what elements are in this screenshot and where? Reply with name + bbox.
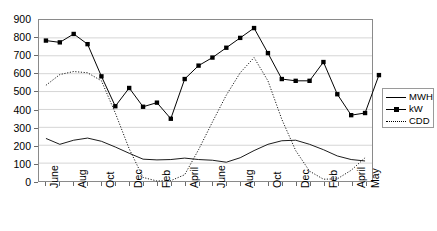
legend-swatch-icon bbox=[385, 104, 407, 115]
x-axis: JuneAugOctDecFebAprilJuneAugOctDecFebApr… bbox=[38, 182, 373, 231]
x-tick-mark bbox=[282, 182, 283, 186]
x-tick-mark bbox=[185, 182, 186, 186]
data-point-marker bbox=[238, 36, 242, 40]
y-tick-label: 800 bbox=[13, 32, 31, 42]
x-tick-mark bbox=[171, 182, 172, 186]
data-point-marker bbox=[335, 92, 339, 96]
data-point-marker bbox=[58, 40, 62, 44]
x-tick-mark bbox=[366, 182, 367, 186]
chart-container: 9008007006005004003002001000 JuneAugOctD… bbox=[0, 0, 437, 231]
legend-item-cdd: CDD bbox=[385, 115, 431, 127]
x-tick-label: May bbox=[370, 168, 381, 188]
data-point-marker bbox=[224, 46, 228, 50]
legend-swatch-icon bbox=[385, 116, 407, 127]
x-tick-mark bbox=[199, 182, 200, 186]
x-tick-mark bbox=[226, 182, 227, 186]
series-line-kw bbox=[46, 28, 379, 119]
data-point-marker bbox=[196, 63, 200, 67]
series-line-cdd bbox=[46, 58, 365, 181]
legend-label: kW bbox=[409, 104, 423, 114]
y-tick-label: 300 bbox=[13, 123, 31, 133]
data-point-marker bbox=[113, 104, 117, 108]
data-point-marker bbox=[169, 117, 173, 121]
data-point-marker bbox=[182, 77, 186, 81]
series-line-mwh bbox=[46, 138, 365, 162]
x-tick-mark bbox=[143, 182, 144, 186]
series-layer bbox=[39, 20, 372, 181]
data-point-marker bbox=[155, 100, 159, 104]
plot-area bbox=[38, 19, 373, 182]
x-tick-mark bbox=[240, 182, 241, 186]
legend-label: MWH bbox=[409, 92, 433, 102]
x-tick-mark bbox=[129, 182, 130, 186]
data-point-marker bbox=[141, 105, 145, 109]
legend-item-kw: kW bbox=[385, 103, 431, 115]
x-tick-mark bbox=[73, 182, 74, 186]
data-point-marker bbox=[252, 26, 256, 30]
data-point-marker bbox=[349, 113, 353, 117]
x-tick-mark bbox=[268, 182, 269, 186]
x-tick-mark bbox=[296, 182, 297, 186]
data-point-marker bbox=[99, 74, 103, 78]
x-tick-mark bbox=[59, 182, 60, 186]
data-point-marker bbox=[85, 42, 89, 46]
data-point-marker bbox=[266, 51, 270, 55]
data-point-marker bbox=[294, 79, 298, 83]
data-point-marker bbox=[72, 32, 76, 36]
x-tick-mark bbox=[212, 182, 213, 186]
x-tick-mark bbox=[254, 182, 255, 186]
x-tick-mark bbox=[157, 182, 158, 186]
data-point-marker bbox=[280, 77, 284, 81]
legend-item-mwh: MWH bbox=[385, 91, 431, 103]
x-tick-mark bbox=[324, 182, 325, 186]
legend-line-icon bbox=[386, 121, 406, 122]
legend-swatch-icon bbox=[385, 92, 407, 103]
legend-line-icon bbox=[386, 97, 406, 98]
legend-label: CDD bbox=[409, 116, 430, 126]
x-tick-mark bbox=[101, 182, 102, 186]
data-point-marker bbox=[210, 55, 214, 59]
data-point-marker bbox=[363, 111, 367, 115]
y-tick-label: 600 bbox=[13, 68, 31, 78]
y-tick-label: 900 bbox=[13, 14, 31, 24]
data-point-marker bbox=[321, 60, 325, 64]
y-tick-label: 0 bbox=[25, 177, 31, 187]
x-tick-mark bbox=[310, 182, 311, 186]
x-tick-mark bbox=[115, 182, 116, 186]
data-point-marker bbox=[307, 79, 311, 83]
y-tick-label: 500 bbox=[13, 86, 31, 96]
chart-legend: MWHkWCDD bbox=[382, 88, 434, 128]
data-point-marker bbox=[377, 73, 381, 77]
data-point-marker bbox=[44, 38, 48, 42]
x-tick-mark bbox=[352, 182, 353, 186]
x-tick-mark bbox=[45, 182, 46, 186]
y-tick-label: 100 bbox=[13, 159, 31, 169]
y-tick-label: 400 bbox=[13, 105, 31, 115]
data-point-marker bbox=[127, 86, 131, 90]
y-tick-label: 200 bbox=[13, 141, 31, 151]
y-axis: 9008007006005004003002001000 bbox=[0, 19, 38, 182]
x-tick-mark bbox=[338, 182, 339, 186]
legend-square-marker-icon bbox=[394, 107, 399, 112]
y-tick-label: 700 bbox=[13, 50, 31, 60]
x-tick-mark bbox=[87, 182, 88, 186]
